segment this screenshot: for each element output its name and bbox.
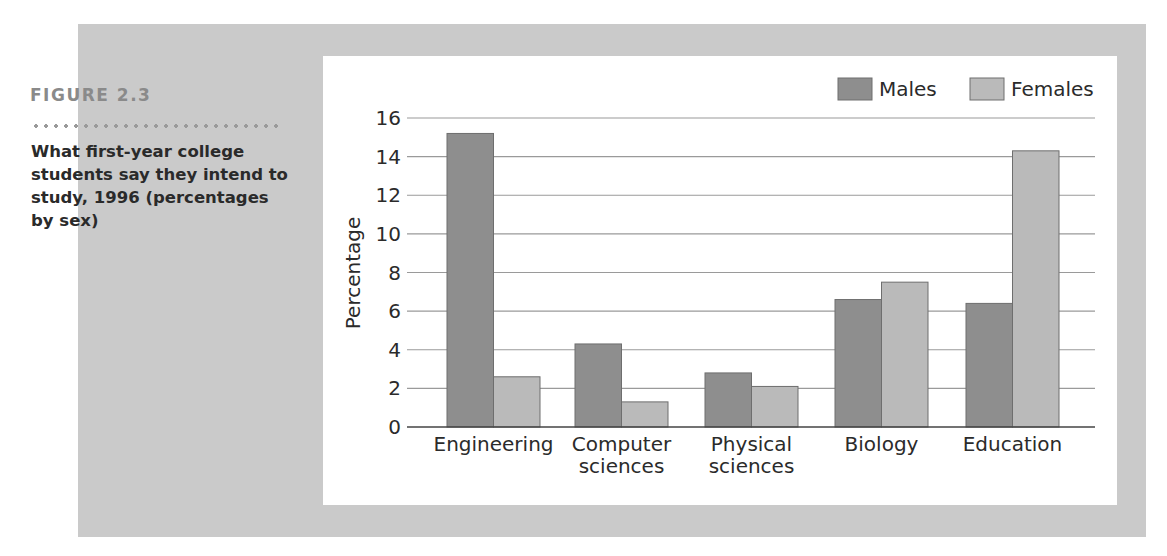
bar-females-biology <box>882 282 929 427</box>
legend-swatch-females <box>970 78 1004 100</box>
bar-chart: 0246810121416 EngineeringComputerscience… <box>0 0 1167 556</box>
bar-males-education <box>966 303 1013 427</box>
y-tick-label: 6 <box>388 299 401 323</box>
y-axis-ticks: 0246810121416 <box>376 106 401 439</box>
bars <box>447 133 1059 427</box>
bar-males-biology <box>835 300 882 427</box>
y-tick-label: 12 <box>376 183 401 207</box>
x-category-label: Computer <box>572 432 672 456</box>
x-category-label: Physical <box>711 432 792 456</box>
bar-females-physical-sciences <box>752 386 799 427</box>
bar-males-computer-sciences <box>575 344 622 427</box>
bar-females-computer-sciences <box>622 402 669 427</box>
legend-label-females: Females <box>1011 77 1094 101</box>
legend-label-males: Males <box>879 77 937 101</box>
y-tick-label: 4 <box>388 338 401 362</box>
bar-males-physical-sciences <box>705 373 752 427</box>
y-tick-label: 14 <box>376 145 401 169</box>
x-category-label: Biology <box>845 432 919 456</box>
bar-females-engineering <box>494 377 541 427</box>
y-tick-label: 2 <box>388 376 401 400</box>
y-tick-label: 16 <box>376 106 401 130</box>
x-category-label: sciences <box>709 454 795 478</box>
x-axis-labels: EngineeringComputersciencesPhysicalscien… <box>434 432 1063 478</box>
bar-females-education <box>1013 151 1060 427</box>
x-category-label: sciences <box>579 454 665 478</box>
x-category-label: Engineering <box>434 432 554 456</box>
x-category-label: Education <box>963 432 1063 456</box>
legend: MalesFemales <box>838 77 1094 101</box>
y-tick-label: 8 <box>388 261 401 285</box>
y-tick-label: 0 <box>388 415 401 439</box>
bar-males-engineering <box>447 133 494 427</box>
y-axis-label: Percentage <box>341 217 365 330</box>
y-tick-label: 10 <box>376 222 401 246</box>
legend-swatch-males <box>838 78 872 100</box>
